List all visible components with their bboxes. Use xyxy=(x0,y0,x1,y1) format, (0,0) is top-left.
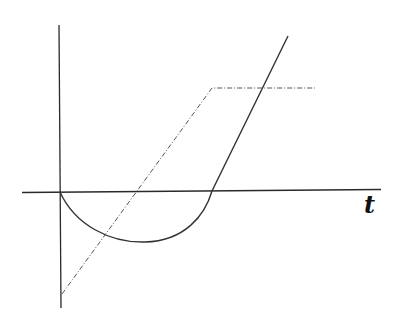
solid-curve xyxy=(60,36,288,242)
horizontal-axis xyxy=(22,190,381,193)
diagram-canvas: t xyxy=(0,0,394,322)
t-axis-label: t xyxy=(364,193,375,217)
vertical-axis xyxy=(59,25,61,308)
diagram-svg xyxy=(0,0,394,322)
